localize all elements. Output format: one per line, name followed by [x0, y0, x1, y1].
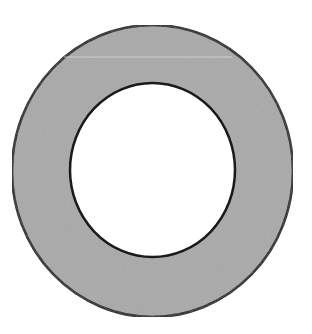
annulus-diagram	[0, 0, 312, 334]
inner-hole	[70, 83, 235, 257]
